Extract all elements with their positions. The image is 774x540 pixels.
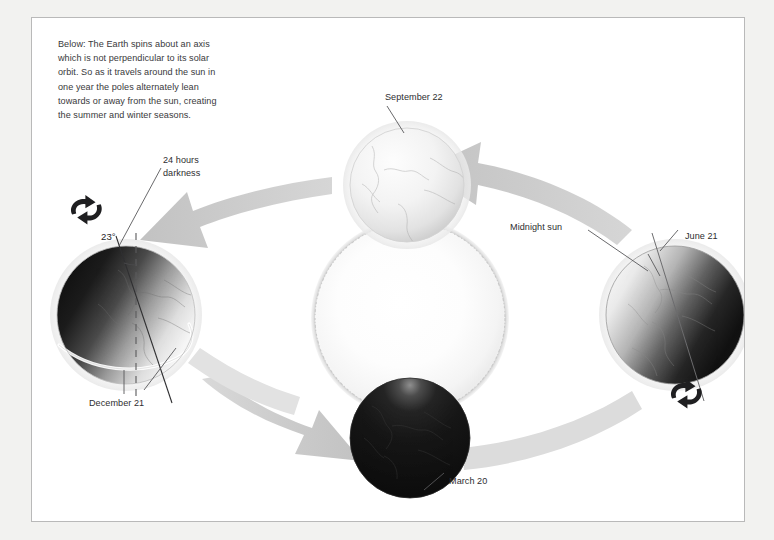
- annotation-24-hours-darkness: 24 hours darkness: [163, 154, 200, 179]
- globe-june: [588, 230, 744, 401]
- page-background: Below: The Earth spins about an axis whi…: [0, 0, 774, 540]
- orbit-arrow-dec-to-mar: [202, 376, 362, 461]
- globe-label-december: December 21: [89, 397, 144, 410]
- caption-text: Below: The Earth spins about an axis whi…: [58, 37, 268, 122]
- diagram-stage: Below: The Earth spins about an axis whi…: [32, 18, 744, 521]
- content-panel: Below: The Earth spins about an axis whi…: [31, 17, 745, 522]
- orbit-band-mar-to-jun: [462, 391, 642, 470]
- globe-label-september: September 22: [385, 91, 443, 104]
- globe-label-june: June 21: [685, 230, 718, 243]
- globe-label-march: March 20: [449, 475, 487, 488]
- annotation-axial-tilt-23-degrees: 23°: [101, 231, 116, 244]
- rotation-arrow-icon: [71, 195, 102, 225]
- orbit-arrow-sept-to-dec: [140, 177, 332, 248]
- annotation-midnight-sun: Midnight sun: [510, 221, 562, 234]
- globe-september: [343, 106, 471, 249]
